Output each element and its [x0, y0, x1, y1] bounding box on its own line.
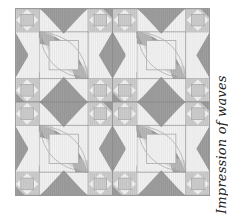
quilt-pattern-figure: [15, 8, 210, 196]
wave-quilt-pattern: [15, 8, 210, 196]
figure-caption: Impression of waves: [214, 75, 228, 214]
